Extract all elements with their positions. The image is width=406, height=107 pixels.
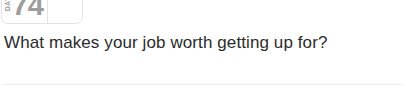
prompt-question: What makes your job worth getting up for…: [4, 32, 327, 54]
section-divider: [4, 84, 402, 85]
day-number: 74: [12, 0, 43, 20]
day-counter-badge[interactable]: DAY 74: [1, 0, 83, 24]
badge-empty-cell[interactable]: [48, 0, 82, 23]
day-counter-cell: DAY 74: [2, 0, 47, 23]
journal-prompt-screen: DAY 74 What makes your job worth getting…: [0, 0, 406, 107]
day-label: DAY: [4, 0, 11, 12]
